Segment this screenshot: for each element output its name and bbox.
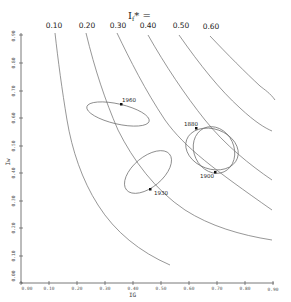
- ellipse-1930: [117, 143, 179, 202]
- year-label-1960: 1960: [122, 97, 136, 103]
- axes: [21, 33, 274, 283]
- year-label-1900: 1900: [200, 173, 214, 179]
- iso-curve-0.60: [210, 36, 275, 100]
- y-tick-label: 0.30: [11, 195, 16, 206]
- y-tick-label: 0.60: [11, 112, 16, 123]
- iso-curve-0.50: [179, 35, 272, 131]
- y-tick-label: 0.10: [11, 250, 16, 261]
- curve-label-0.30: 0.30: [110, 21, 127, 30]
- uncertainty-ellipses: [85, 97, 245, 201]
- y-tick-label: 0.40: [11, 167, 16, 178]
- ellipse-1960: [85, 97, 152, 131]
- x-tick-label: 0.00: [22, 286, 33, 291]
- x-tick-labels: 0.00 0.10 0.20 0.30 0.40 0.50 0.60 0.70 …: [22, 286, 279, 292]
- x-tick-label: 0.70: [212, 286, 223, 291]
- y-tick-label: 0.90: [11, 30, 16, 41]
- y-tick-label: 0.20: [11, 222, 16, 233]
- x-tick-label: 0.80: [240, 286, 251, 291]
- y-tick-label: 0.70: [11, 85, 16, 96]
- curve-label-0.40: 0.40: [140, 21, 157, 30]
- year-label-1880: 1880: [184, 121, 198, 127]
- point-1960: [120, 103, 123, 106]
- x-tick-label: 0.20: [72, 286, 83, 291]
- curve-labels: 0.10 0.20 0.30 0.40 0.50 0.60: [46, 21, 220, 31]
- y-tick-label: 0.00: [11, 270, 16, 281]
- iso-curves: [55, 33, 275, 265]
- curve-label-0.50: 0.50: [173, 21, 190, 30]
- iso-curve-0.10: [55, 33, 170, 265]
- curve-label-0.10: 0.10: [46, 21, 63, 30]
- point-1880: [195, 127, 198, 130]
- x-tick-label: 0.50: [156, 286, 167, 291]
- title-suffix: *: [134, 10, 142, 21]
- x-tick-label: 0.60: [184, 286, 195, 291]
- point-1930: [149, 188, 152, 191]
- curve-label-0.20: 0.20: [79, 21, 96, 30]
- year-label-1930: 1930: [154, 190, 168, 196]
- x-tick-label: 0.90: [268, 287, 279, 292]
- x-axis-title: IG: [129, 291, 137, 298]
- x-tick-label: 0.10: [44, 286, 55, 291]
- y-axis-title: Iw: [4, 158, 11, 166]
- x-tick-label: 0.30: [100, 286, 111, 291]
- y-tick-label: 0.50: [11, 140, 16, 151]
- y-tick-label: 0.80: [11, 57, 16, 68]
- y-tick-labels: 0.00 0.10 0.20 0.30 0.40 0.50 0.60 0.70 …: [11, 30, 16, 281]
- iso-curve-0.40: [148, 35, 272, 180]
- curve-label-0.60: 0.60: [203, 22, 220, 31]
- point-labels: 1960 1930 1880 1900: [122, 97, 214, 196]
- point-1900: [214, 171, 217, 174]
- iso-curve-chart: 0.00 0.10 0.20 0.30 0.40 0.50 0.60 0.70 …: [0, 0, 291, 302]
